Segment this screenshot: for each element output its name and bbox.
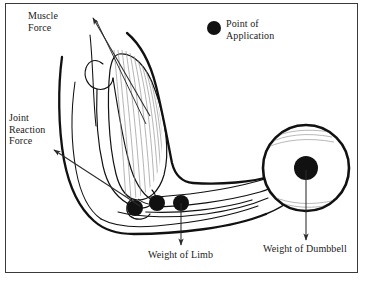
label-muscle-force: Muscle Force bbox=[28, 10, 58, 33]
label-joint-reaction-line1: Joint bbox=[9, 112, 45, 124]
label-point-of-application-line1: Point of bbox=[226, 18, 274, 30]
label-point-of-application: Point of Application bbox=[226, 18, 274, 41]
label-weight-of-dumbbell: Weight of Dumbbell bbox=[263, 243, 347, 255]
joint-reaction-force-arrow bbox=[54, 150, 140, 206]
label-muscle-force-line1: Muscle bbox=[28, 10, 58, 22]
legend-point-of-application-marker bbox=[207, 21, 221, 35]
label-point-of-application-line2: Application bbox=[226, 30, 274, 42]
label-joint-reaction-line3: Force bbox=[9, 135, 45, 147]
arm-inner-contours bbox=[72, 35, 268, 227]
diagram-canvas bbox=[0, 0, 367, 281]
label-joint-reaction-force: Joint Reaction Force bbox=[9, 112, 45, 147]
muscle-force-arrow-secondary bbox=[96, 20, 146, 124]
biceps-muscle bbox=[108, 50, 169, 204]
muscle-force-arrow bbox=[93, 18, 150, 116]
label-joint-reaction-line2: Reaction bbox=[9, 124, 45, 136]
label-muscle-force-line2: Force bbox=[28, 22, 58, 34]
label-weight-of-limb: Weight of Limb bbox=[148, 249, 213, 261]
figure-root: Muscle Force Point of Application Joint … bbox=[0, 0, 367, 281]
muscle-insertion-point bbox=[149, 195, 165, 211]
